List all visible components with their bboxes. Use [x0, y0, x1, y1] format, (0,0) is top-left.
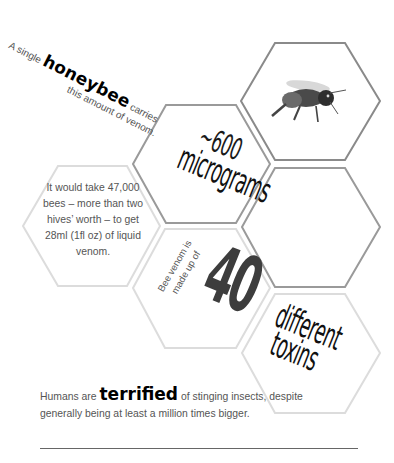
fact-47000-bees: It would take 47,000 bees – more than tw…: [40, 180, 146, 260]
bottom-caption: Humans are terrified of stinging insects…: [40, 386, 320, 422]
bottom-terrified-bold: terrified: [99, 384, 178, 404]
bee-icon: [268, 76, 352, 126]
bottom-pre: Humans are: [40, 391, 99, 402]
divider-line: [40, 448, 358, 449]
